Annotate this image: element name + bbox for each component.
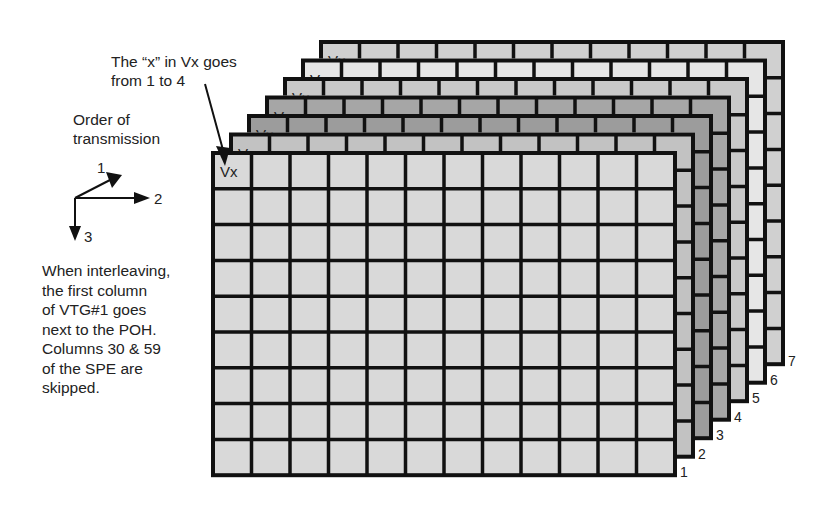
layer-number-label: 7 [788,353,796,369]
vx-range-note: The “x” in Vx goes from 1 to 4 [111,52,237,90]
layer-number-label: 3 [716,427,724,443]
layers-group: Vx7Vx6Vx5Vx4Vx3Vx2Vx1 [211,40,796,480]
layer-number-label: 4 [734,409,742,425]
axis-3-label: 3 [84,228,92,245]
order-of-transmission-title: Order of transmission [73,110,160,148]
axis-2-label: 2 [154,190,162,207]
corner-vx-label: Vx [220,163,238,180]
layer-1: Vx1 [211,151,688,480]
arrow-2-icon [134,192,150,204]
axis-1-label: 1 [97,159,105,176]
interleaving-note: When interleaving, the first column of V… [42,261,170,398]
layer-number-label: 2 [698,446,706,462]
vtg-interleaving-diagram: Vx7Vx6Vx5Vx4Vx3Vx2Vx1 1 2 3 The “x” in V… [0,0,834,505]
layer-number-label: 1 [680,464,688,480]
layer-number-label: 6 [770,372,778,388]
order-of-transmission-axes-icon: 1 2 3 [69,159,162,245]
arrow-3-icon [69,226,81,241]
layer-number-label: 5 [752,390,760,406]
